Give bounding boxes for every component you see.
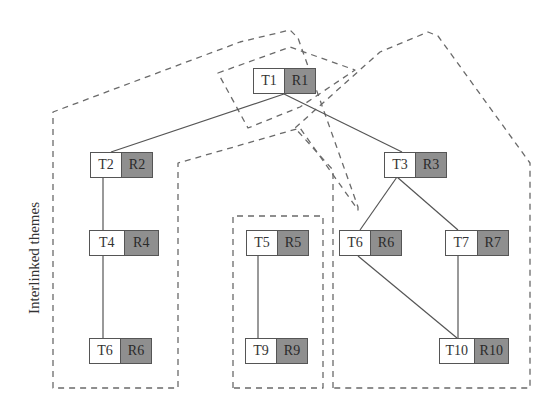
resource-label: R3 [416,153,446,177]
theme-label: T10 [440,339,475,363]
theme-label: T4 [90,231,125,255]
edge-t3-t7 [397,177,458,230]
theme-label: T6 [90,339,121,363]
resource-label: R7 [478,231,509,255]
resource-label: R6 [371,231,401,255]
theme-node-t4: T4R4 [89,230,159,256]
theme-node-t1: T1R1 [253,68,316,94]
edge-t1-t3 [284,94,402,152]
theme-label: T3 [385,153,416,177]
theme-label: T7 [446,231,478,255]
theme-node-t2: T2R2 [90,152,153,178]
right-theme-group [295,32,530,388]
resource-label: R4 [125,231,159,255]
theme-label: T1 [254,69,285,93]
resource-label: R6 [121,339,151,363]
resource-label: R1 [285,69,315,93]
resource-label: R5 [278,231,308,255]
theme-label: T5 [247,231,278,255]
resource-label: R2 [122,153,152,177]
theme-node-t3: T3R3 [384,152,447,178]
theme-node-t6: T6R6 [339,230,402,256]
theme-node-t6: T6R6 [89,338,152,364]
resource-label: R9 [277,339,307,363]
theme-diagram: T1R1T2R2T3R3T4R4T5R5T6R6T7R7T6R6T9R9T10R… [0,0,559,411]
theme-label: T2 [91,153,122,177]
theme-label: T9 [246,339,277,363]
edge-t3-t6 [360,177,397,230]
edges [103,94,458,338]
edge-t1-t2 [111,94,284,152]
theme-label: T6 [340,231,371,255]
theme-node-t10: T10R10 [439,338,509,364]
resource-label: R10 [475,339,509,363]
side-label: Interlinked themes [26,202,43,314]
theme-node-t5: T5R5 [246,230,309,256]
theme-node-t9: T9R9 [245,338,308,364]
theme-node-t7: T7R7 [445,230,509,256]
edge-t6-t10 [358,256,457,338]
